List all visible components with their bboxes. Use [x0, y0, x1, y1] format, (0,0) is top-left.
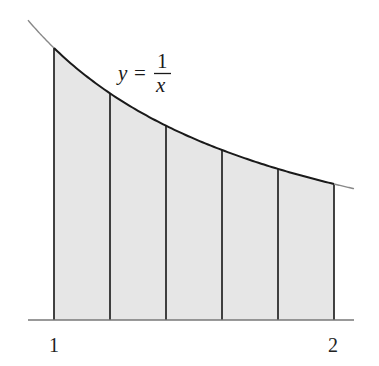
function-label: y = 1 x [116, 49, 171, 97]
shaded-area-under-curve [54, 48, 334, 320]
function-label-equals: = [134, 61, 146, 85]
x-tick-label-1: 1 [49, 334, 59, 356]
curve-extension-left [28, 20, 54, 48]
curve-extension-right [334, 184, 354, 189]
function-label-lhs: y [116, 61, 128, 85]
function-label-denominator: x [155, 73, 166, 97]
shaded-region [54, 48, 334, 320]
integral-diagram: y = 1 x 1 2 [0, 0, 379, 366]
x-tick-label-2: 2 [328, 334, 338, 356]
function-label-numerator: 1 [157, 49, 168, 73]
